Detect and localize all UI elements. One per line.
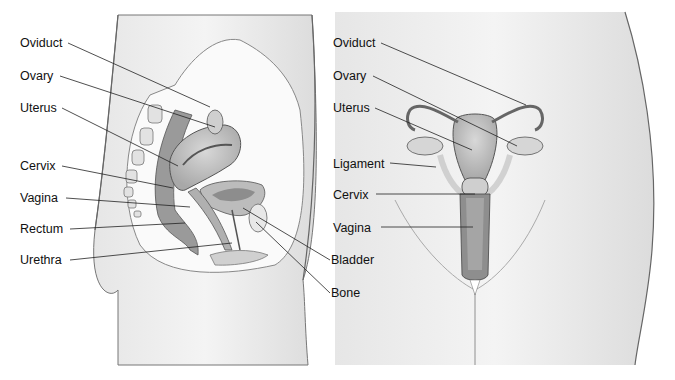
label-ligament-front: Ligament (333, 157, 384, 171)
label-uterus-front: Uterus (333, 101, 370, 115)
pubic-bone-shape (249, 204, 267, 232)
label-vagina-front: Vagina (333, 221, 371, 235)
front-ovary-left (407, 137, 443, 155)
front-ovary-right (507, 137, 543, 155)
label-ovary-side: Ovary (20, 69, 53, 83)
label-oviduct-side: Oviduct (20, 36, 62, 50)
label-vagina-side: Vagina (20, 191, 58, 205)
label-cervix-front: Cervix (333, 188, 368, 202)
front-view-body (335, 12, 654, 365)
label-uterus-side: Uterus (20, 101, 57, 115)
label-oviduct-front: Oviduct (333, 36, 375, 50)
label-urethra-side: Urethra (20, 253, 62, 267)
label-cervix-side: Cervix (20, 159, 55, 173)
label-bone: Bone (331, 286, 360, 300)
side-view-body (94, 15, 317, 365)
anatomy-diagram: Oviduct Ovary Uterus Cervix Vagina Rectu… (0, 0, 675, 380)
front-cervix-shape (462, 178, 488, 196)
label-ovary-front: Ovary (333, 69, 366, 83)
label-rectum-side: Rectum (20, 222, 63, 236)
label-bladder: Bladder (331, 253, 374, 267)
ovary-shape (207, 110, 223, 134)
